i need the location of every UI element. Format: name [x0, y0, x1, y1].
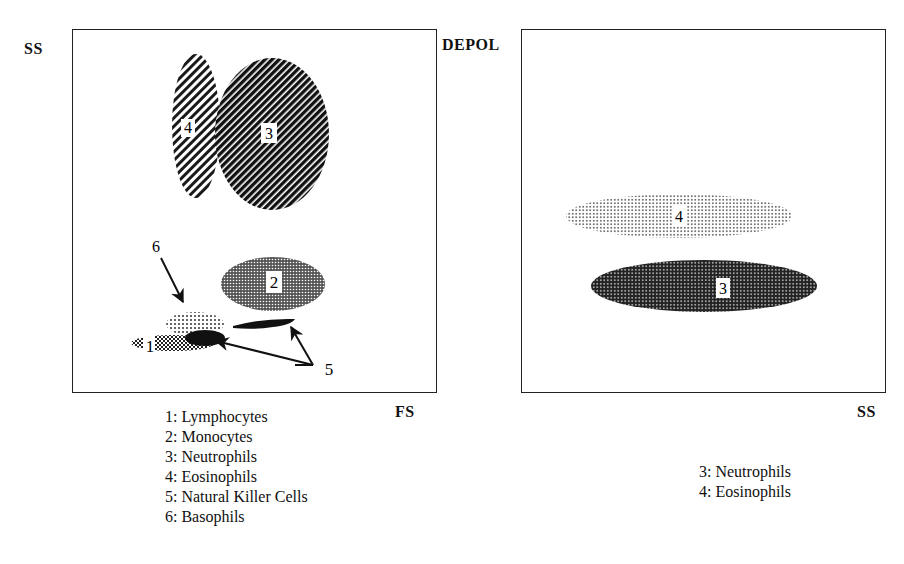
legend-item: 2: Monocytes: [165, 427, 308, 447]
left-x-axis-label: FS: [395, 403, 415, 421]
label-4: 4: [675, 208, 683, 225]
label-3: 3: [265, 125, 273, 142]
right-legend: 3: Neutrophils 4: Eosinophils: [699, 462, 791, 502]
label-3: 3: [719, 280, 727, 297]
population-eosinophils: [172, 54, 220, 198]
left-scatter-panel: 4 3 2 1 6 5: [72, 29, 437, 393]
right-plot-svg: 4 3: [522, 30, 884, 391]
legend-item: 4: Eosinophils: [165, 467, 308, 487]
label-1: 1: [146, 337, 155, 356]
arrow-6: [161, 258, 183, 302]
arrow-5a: [216, 341, 313, 365]
legend-item: 1: Lymphocytes: [165, 407, 308, 427]
left-y-axis-label: SS: [24, 40, 43, 58]
population-nk-cells-lower: [185, 330, 225, 346]
label-2: 2: [270, 273, 279, 292]
label-6: 6: [152, 238, 160, 255]
legend-item: 5: Natural Killer Cells: [165, 487, 308, 507]
legend-item: 3: Neutrophils: [699, 462, 791, 482]
legend-item: 4: Eosinophils: [699, 482, 791, 502]
label-4: 4: [184, 119, 192, 136]
legend-item: 3: Neutrophils: [165, 447, 308, 467]
population-nk-cells-upper: [233, 319, 295, 329]
left-plot-svg: 4 3 2 1 6 5: [73, 30, 435, 391]
label-5: 5: [325, 360, 334, 379]
arrow-5b: [291, 327, 313, 365]
legend-item: 6: Basophils: [165, 507, 308, 527]
right-y-axis-label: DEPOL: [442, 36, 500, 54]
right-scatter-panel: 4 3: [521, 29, 886, 393]
left-legend: 1: Lymphocytes 2: Monocytes 3: Neutrophi…: [165, 407, 308, 527]
right-x-axis-label: SS: [857, 403, 876, 421]
population-neutrophils: [591, 260, 817, 312]
